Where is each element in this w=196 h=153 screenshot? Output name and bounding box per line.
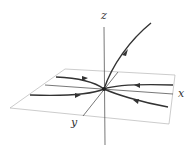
- x-axis: [45, 85, 173, 94]
- y-axis-label: y: [70, 116, 78, 129]
- y-axis: [83, 72, 118, 116]
- trajectories: [30, 23, 173, 107]
- origin-point: [102, 87, 106, 91]
- x-axis-label: x: [178, 87, 185, 100]
- phase-portrait-diagram: z x y: [0, 0, 196, 153]
- z-axis-label: z: [100, 9, 107, 22]
- arrowheads: [75, 49, 140, 104]
- xy-plane: [10, 69, 175, 124]
